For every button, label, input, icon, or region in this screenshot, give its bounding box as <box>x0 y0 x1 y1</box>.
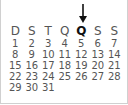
week-row-2: 8 9 10 11 12 13 14 <box>7 49 123 60</box>
day-cell[interactable]: 14 <box>106 49 123 60</box>
day-cell[interactable]: 4 <box>57 38 74 49</box>
day-cell[interactable]: 18 <box>57 60 74 71</box>
day-cell[interactable]: 7 <box>106 38 123 49</box>
day-cell[interactable]: 29 <box>7 82 24 93</box>
day-cell[interactable]: 24 <box>40 71 57 82</box>
weekday-monday: S <box>24 24 41 38</box>
day-cell[interactable]: 11 <box>57 49 74 60</box>
week-row-5: 29 30 31 <box>7 82 123 93</box>
weekday-header: D S T Q Q S S <box>7 24 123 38</box>
day-cell[interactable]: 22 <box>7 71 24 82</box>
weekday-saturday: S <box>106 24 123 38</box>
day-cell[interactable]: 21 <box>106 60 123 71</box>
day-cell-empty <box>90 82 107 93</box>
weekday-tuesday: T <box>40 24 57 38</box>
day-cell[interactable]: 25 <box>57 71 74 82</box>
day-cell[interactable]: 19 <box>73 60 90 71</box>
week-row-4: 22 23 24 25 26 27 28 <box>7 71 123 82</box>
day-cell[interactable]: 23 <box>24 71 41 82</box>
day-cell[interactable]: 13 <box>90 49 107 60</box>
weekday-thursday-highlighted: Q <box>73 24 90 38</box>
day-cell[interactable]: 1 <box>7 38 24 49</box>
day-cell-empty <box>106 82 123 93</box>
day-cell[interactable]: 17 <box>40 60 57 71</box>
day-cell[interactable]: 2 <box>24 38 41 49</box>
day-cell[interactable]: 20 <box>90 60 107 71</box>
day-cell[interactable]: 16 <box>24 60 41 71</box>
weekday-sunday: D <box>7 24 24 38</box>
day-cell[interactable]: 31 <box>40 82 57 93</box>
day-cell[interactable]: 26 <box>73 71 90 82</box>
day-cell[interactable]: 5 <box>73 38 90 49</box>
day-cell-empty <box>73 82 90 93</box>
day-cell[interactable]: 9 <box>24 49 41 60</box>
calendar-widget: D S T Q Q S S 1 2 3 4 5 6 7 8 9 10 11 12… <box>0 0 128 104</box>
week-row-3: 15 16 17 18 19 20 21 <box>7 60 123 71</box>
weekday-wednesday: Q <box>57 24 74 38</box>
arrow-down-icon <box>78 4 88 24</box>
day-cell[interactable]: 12 <box>73 49 90 60</box>
day-cell[interactable]: 6 <box>90 38 107 49</box>
day-cell[interactable]: 28 <box>106 71 123 82</box>
day-cell[interactable]: 8 <box>7 49 24 60</box>
week-row-1: 1 2 3 4 5 6 7 <box>7 38 123 49</box>
day-cell[interactable]: 30 <box>24 82 41 93</box>
day-cell[interactable]: 27 <box>90 71 107 82</box>
weekday-friday: S <box>90 24 107 38</box>
day-cell-empty <box>57 82 74 93</box>
calendar-grid: D S T Q Q S S 1 2 3 4 5 6 7 8 9 10 11 12… <box>7 24 123 93</box>
day-cell[interactable]: 15 <box>7 60 24 71</box>
day-cell[interactable]: 10 <box>40 49 57 60</box>
day-cell[interactable]: 3 <box>40 38 57 49</box>
